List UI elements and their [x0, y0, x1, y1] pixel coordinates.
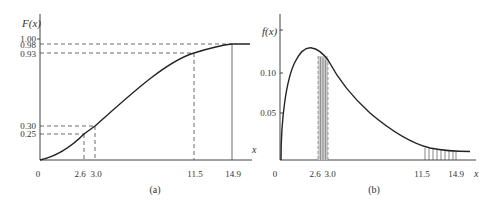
xtick-14-9-a: 14.9 — [225, 169, 241, 179]
cdf-curve — [40, 44, 250, 160]
xtick-14-9-b: 14.9 — [448, 169, 464, 179]
ytick-0-10: 0.10 — [260, 68, 276, 78]
xtick-3-0-b: 3.0 — [324, 169, 336, 179]
guide-lines-a — [40, 44, 232, 160]
panel-label-b: (b) — [368, 184, 380, 196]
ytick-0-93: 0.93 — [20, 49, 36, 59]
xtick-3-0-a: 3.0 — [90, 169, 102, 179]
ytick-0-05: 0.05 — [260, 108, 276, 118]
xtick-11-5-b: 11.5 — [414, 169, 430, 179]
xlabel-b: x — [473, 168, 479, 179]
panel-label-a: (a) — [149, 184, 160, 196]
figure: F(x) 1.00 0.98 0.93 0.30 0.25 0 2.6 3.0 … — [0, 0, 494, 210]
xtick-2-6-a: 2.6 — [74, 169, 86, 179]
xtick-2-6-b: 2.6 — [309, 169, 321, 179]
ylabel-b: f(x) — [262, 25, 278, 38]
pdf-curve — [281, 48, 470, 160]
panel-a — [37, 14, 252, 160]
xtick-0-b: 0 — [273, 169, 278, 179]
panel-b — [280, 14, 476, 160]
xtick-0-a: 0 — [36, 169, 41, 179]
ytick-0-25: 0.25 — [20, 129, 36, 139]
xtick-11-5-a: 11.5 — [187, 169, 203, 179]
xlabel-a: x — [251, 144, 257, 155]
ylabel-a: F(x) — [21, 17, 41, 30]
